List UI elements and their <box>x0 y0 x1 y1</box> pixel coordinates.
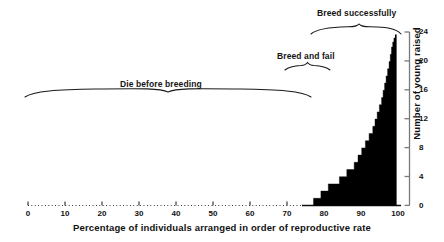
x-tick-label-70: 70 <box>274 209 300 218</box>
y-tick-label-20: 20 <box>419 56 437 65</box>
bar-peak-spike <box>395 35 397 206</box>
x-tick-label-0: 0 <box>15 209 41 218</box>
y-axis-title: Number of young raised <box>411 24 422 144</box>
y-tick-label-16: 16 <box>419 85 437 94</box>
x-tick-label-30: 30 <box>126 209 152 218</box>
x-tick-label-10: 10 <box>52 209 78 218</box>
brace-die-before-breeding <box>25 89 311 97</box>
brace-breed-successfully <box>311 24 401 34</box>
x-tick-label-20: 20 <box>89 209 115 218</box>
annotation-die-before-breeding: Die before breeding <box>120 79 202 89</box>
annotation-breed-and-fail: Breed and fail <box>277 51 335 61</box>
x-tick-label-50: 50 <box>200 209 226 218</box>
annotation-breed-successfully: Breed successfully <box>317 8 396 18</box>
y-tick-label-8: 8 <box>419 143 437 152</box>
bar-staircase <box>314 38 396 206</box>
x-axis-minor-ticks-dotted <box>28 202 287 206</box>
y-tick-label-0: 0 <box>419 201 437 210</box>
reproductive-rate-figure: Die before breeding Breed and fail Breed… <box>0 0 444 242</box>
y-axis-ticks <box>405 32 410 205</box>
brace-breed-and-fail <box>285 63 330 71</box>
x-tick-label-80: 80 <box>311 209 337 218</box>
y-tick-label-4: 4 <box>419 172 437 181</box>
x-tick-label-40: 40 <box>163 209 189 218</box>
chart-canvas <box>0 0 444 242</box>
x-tick-label-90: 90 <box>348 209 374 218</box>
x-tick-label-60: 60 <box>237 209 263 218</box>
x-axis-title: Percentage of individuals arranged in or… <box>0 222 444 233</box>
y-tick-label-12: 12 <box>419 114 437 123</box>
y-tick-label-24: 24 <box>419 27 437 36</box>
x-tick-label-100: 100 <box>385 209 411 218</box>
